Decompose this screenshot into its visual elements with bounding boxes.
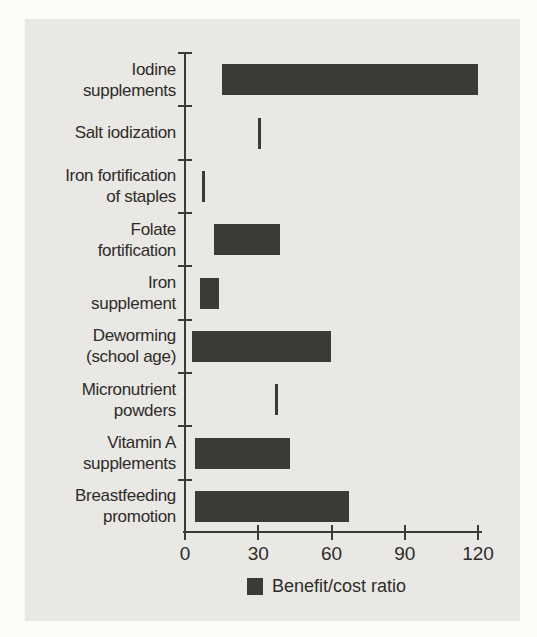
- y-tick: [178, 425, 192, 427]
- y-tick: [178, 265, 192, 267]
- y-tick: [178, 105, 192, 107]
- x-axis-line: [183, 531, 482, 533]
- legend: Benefit/cost ratio: [247, 576, 406, 597]
- range-bar: [195, 438, 290, 469]
- y-tick: [178, 212, 192, 214]
- category-label-line: supplements: [30, 80, 176, 101]
- range-bar: [258, 118, 261, 149]
- category-label-line: Iodine: [30, 59, 176, 80]
- x-tick: [477, 525, 479, 540]
- category-label-line: promotion: [30, 506, 176, 527]
- range-bar: [200, 278, 220, 309]
- category-label-line: Breastfeeding: [30, 485, 176, 506]
- x-tick: [404, 525, 406, 540]
- y-axis-line: [184, 53, 186, 540]
- category-label-line: Micronutrient: [30, 379, 176, 400]
- category-label-line: (school age): [30, 346, 176, 367]
- category-label: Salt iodization: [30, 106, 176, 159]
- y-tick: [178, 52, 192, 54]
- category-label: Iodinesupplements: [30, 53, 176, 106]
- category-label-line: Iron: [30, 272, 176, 293]
- y-tick: [178, 159, 192, 161]
- category-label: Ironsupplement: [30, 266, 176, 319]
- x-tick-label: 120: [448, 542, 508, 566]
- y-tick: [178, 372, 192, 374]
- category-label-line: supplements: [30, 453, 176, 474]
- x-tick: [331, 525, 333, 540]
- category-label-line: Salt iodization: [30, 122, 176, 143]
- category-label-line: powders: [30, 400, 176, 421]
- range-bar: [195, 491, 349, 522]
- x-tick-label: 30: [228, 542, 288, 566]
- legend-swatch-icon: [247, 578, 263, 595]
- category-label: Folatefortification: [30, 213, 176, 266]
- category-label-line: Deworming: [30, 325, 176, 346]
- x-tick-label: 60: [302, 542, 362, 566]
- x-tick-label: 90: [375, 542, 435, 566]
- category-label-line: Folate: [30, 219, 176, 240]
- range-bar: [275, 384, 278, 415]
- y-tick: [178, 319, 192, 321]
- category-label-line: fortification: [30, 240, 176, 261]
- category-label-line: of staples: [30, 186, 176, 207]
- range-bar: [214, 224, 280, 255]
- x-tick-label: 0: [155, 542, 215, 566]
- range-bar: [192, 331, 331, 362]
- category-label: Vitamin Asupplements: [30, 426, 176, 479]
- category-label-line: supplement: [30, 293, 176, 314]
- category-label: Micronutrientpowders: [30, 373, 176, 426]
- category-label: Iron fortificationof staples: [30, 160, 176, 213]
- category-label-line: Iron fortification: [30, 165, 176, 186]
- range-bar: [202, 171, 205, 202]
- category-label: Deworming(school age): [30, 320, 176, 373]
- y-tick: [178, 479, 192, 481]
- scanned-figure-page: IodinesupplementsSalt iodizationIron for…: [0, 0, 537, 637]
- legend-label: Benefit/cost ratio: [272, 576, 406, 597]
- category-label-line: Vitamin A: [30, 432, 176, 453]
- range-bar: [222, 64, 478, 95]
- x-tick: [257, 525, 259, 540]
- category-label: Breastfeedingpromotion: [30, 480, 176, 533]
